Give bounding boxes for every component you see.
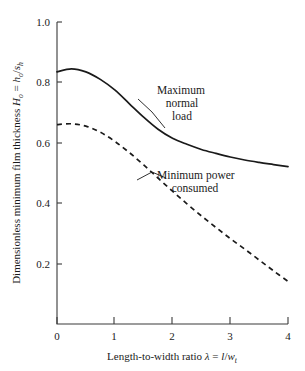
annotation-line: Minimum power xyxy=(157,169,235,182)
annotation-line: normal xyxy=(166,97,199,109)
figure-container: 1.0 0.8 0.6 0.4 0.2 0 1 2 3 4 Maximum no… xyxy=(0,0,305,371)
annotation-max-normal-load: Maximum normal load xyxy=(157,84,205,122)
x-tick-label: 0 xyxy=(54,330,60,342)
x-tick-label: 1 xyxy=(111,330,117,342)
y-tick-labels: 1.0 0.8 0.6 0.4 0.2 xyxy=(36,16,50,270)
y-axis-title: Dimensionless minimum film thickness Ho … xyxy=(10,62,25,284)
y-tick-label: 0.8 xyxy=(36,76,50,88)
y-tickmarks xyxy=(57,22,62,264)
x-tick-labels: 0 1 2 3 4 xyxy=(54,330,291,342)
annotation-line: load xyxy=(172,110,192,122)
x-tickmarks xyxy=(57,317,288,324)
x-tick-label: 2 xyxy=(169,330,175,342)
x-axis-title: Length-to-width ratio λ = l/wt xyxy=(107,350,238,365)
y-tick-label: 0.4 xyxy=(36,197,50,209)
annotation-min-power-consumed: Minimum power consumed xyxy=(157,169,235,194)
y-tick-label: 1.0 xyxy=(36,16,50,28)
annotation-line: Maximum xyxy=(157,84,205,96)
y-tick-label: 0.2 xyxy=(36,258,50,270)
annotation-line: consumed xyxy=(172,182,219,194)
series-line-minimum-power-consumed xyxy=(57,124,288,282)
chart-svg: 1.0 0.8 0.6 0.4 0.2 0 1 2 3 4 Maximum no… xyxy=(0,0,305,371)
y-tick-label: 0.6 xyxy=(36,137,50,149)
x-tick-label: 3 xyxy=(227,330,233,342)
x-tick-label: 4 xyxy=(285,330,291,342)
